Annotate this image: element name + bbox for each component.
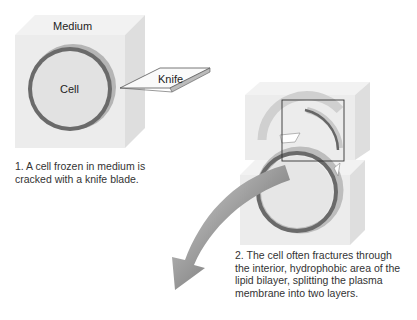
- step2-caption: 2. The cell often fractures through the …: [235, 249, 400, 299]
- step1-caption: 1. A cell frozen in medium is cracked wi…: [15, 160, 145, 185]
- medium-label: Medium: [53, 20, 92, 33]
- cell-label: Cell: [60, 83, 79, 96]
- knife-label: Knife: [158, 73, 183, 86]
